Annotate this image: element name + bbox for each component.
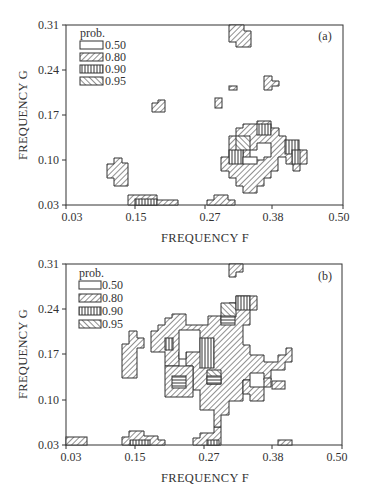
panel-label: (b) xyxy=(318,269,332,283)
y-tick-label: 0.17 xyxy=(38,347,59,361)
x-axis-title: FREQUENCY F xyxy=(161,471,249,485)
legend-label: 0.80 xyxy=(102,291,123,305)
x-tick-label: 0.15 xyxy=(126,210,147,224)
y-tick-label: 0.31 xyxy=(38,257,59,271)
x-tick-label: 0.38 xyxy=(263,210,284,224)
x-axis-title: FREQUENCY F xyxy=(161,231,249,245)
legend-swatch-diagonal xyxy=(79,294,101,302)
y-tick-label: 0.24 xyxy=(38,63,59,77)
legend-swatch-diagonal xyxy=(80,53,103,61)
y-tick-label: 0.24 xyxy=(38,302,59,316)
legend-swatch-empty xyxy=(80,41,103,49)
legend-swatch-backslash xyxy=(80,77,103,85)
y-axis-title: FREQUENCY G xyxy=(16,309,30,399)
y-tick-label: 0.31 xyxy=(38,18,59,32)
legend-swatch-vertical xyxy=(79,307,101,315)
y-tick-label: 0.10 xyxy=(38,153,59,167)
x-tick-label: 0.50 xyxy=(327,450,348,464)
chart-a-svg: 0.31 0.24 0.17 0.10 0.03 0.03 0.15 0.27 … xyxy=(0,0,369,250)
x-tick-label: 0.27 xyxy=(200,210,221,224)
x-tick-label: 0.27 xyxy=(199,450,220,464)
panel-label: (a) xyxy=(318,29,331,43)
legend-title: prob. xyxy=(80,26,105,40)
legend-label: 0.95 xyxy=(102,317,123,331)
x-tick-label: 0.03 xyxy=(61,450,82,464)
y-tick-label: 0.17 xyxy=(38,108,59,122)
x-tick-label: 0.38 xyxy=(263,450,284,464)
y-axis-title: FREQUENCY G xyxy=(16,70,30,160)
legend-label: 0.95 xyxy=(105,74,126,88)
legend-title: prob. xyxy=(79,266,104,280)
x-tick-label: 0.15 xyxy=(125,450,146,464)
legend-swatch-vertical xyxy=(80,65,103,73)
chart-panel-a: 0.31 0.24 0.17 0.10 0.03 0.03 0.15 0.27 … xyxy=(0,0,369,250)
legend-swatch-backslash xyxy=(79,320,101,328)
y-tick-label: 0.03 xyxy=(38,198,59,212)
y-tick-label: 0.03 xyxy=(38,438,59,452)
x-tick-label: 0.50 xyxy=(329,210,350,224)
legend-label: 0.50 xyxy=(102,278,123,292)
chart-b-svg: 0.31 0.24 0.17 0.10 0.03 0.03 0.15 0.27 … xyxy=(0,250,369,499)
legend-swatch-empty xyxy=(79,281,101,289)
y-tick-label: 0.10 xyxy=(38,393,59,407)
x-tick-label: 0.03 xyxy=(62,210,83,224)
legend-label: 0.90 xyxy=(102,304,123,318)
chart-panel-b: 0.31 0.24 0.17 0.10 0.03 0.03 0.15 0.27 … xyxy=(0,250,369,499)
